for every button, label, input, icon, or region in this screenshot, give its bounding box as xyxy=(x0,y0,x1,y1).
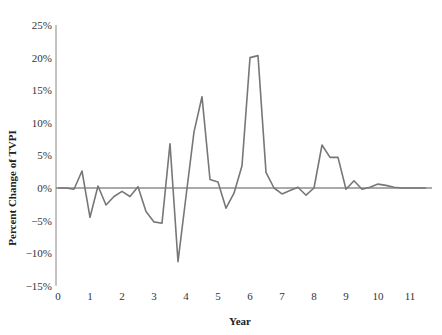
y-axis-tick-labels: 25%20%15%10%5%0%−5%−10%−15% xyxy=(26,19,52,292)
y-tick-label: −10% xyxy=(26,247,52,259)
y-tick-label: −5% xyxy=(31,215,52,227)
x-axis-tick-labels: 01234567891011 xyxy=(55,290,415,302)
x-tick-label: 3 xyxy=(151,290,157,302)
x-tick-label: 10 xyxy=(373,290,385,302)
y-tick-label: 0% xyxy=(37,182,52,194)
x-tick-label: 6 xyxy=(247,290,253,302)
x-tick-label: 7 xyxy=(279,290,285,302)
y-tick-label: 25% xyxy=(32,19,52,31)
x-tick-label: 8 xyxy=(311,290,317,302)
x-tick-label: 11 xyxy=(405,290,416,302)
y-tick-label: 20% xyxy=(32,52,52,64)
y-tick-label: 10% xyxy=(32,117,52,129)
y-tick-label: 5% xyxy=(37,149,52,161)
y-axis-title: Percent Change of TVPI xyxy=(6,130,18,245)
x-tick-label: 2 xyxy=(119,290,125,302)
y-tick-label: −15% xyxy=(26,280,52,292)
x-tick-label: 9 xyxy=(343,290,349,302)
x-axis-title: Year xyxy=(229,315,251,327)
line-chart: 25%20%15%10%5%0%−5%−10%−15% 012345678910… xyxy=(0,0,442,335)
series-line-tvpi-change xyxy=(58,56,426,262)
x-tick-label: 0 xyxy=(55,290,61,302)
x-tick-label: 4 xyxy=(183,290,189,302)
y-tick-label: 15% xyxy=(32,84,52,96)
x-tick-label: 1 xyxy=(87,290,93,302)
x-tick-label: 5 xyxy=(215,290,221,302)
